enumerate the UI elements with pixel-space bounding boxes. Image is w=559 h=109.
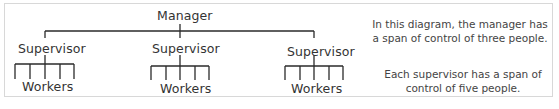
supervisor-label-2: Supervisor: [152, 41, 220, 56]
manager-span-note: In this diagram, the manager has a span …: [370, 17, 550, 45]
supervisor-span-note: Each supervisor has a span of control of…: [378, 67, 548, 95]
manager-label: Manager: [157, 8, 213, 23]
workers-label-3: Workers: [291, 81, 342, 96]
supervisor-label-1: Supervisor: [18, 41, 86, 56]
worker-tree-2: [151, 55, 209, 80]
worker-tree-1: [15, 55, 74, 79]
workers-label-1: Workers: [22, 79, 73, 94]
supervisor-label-3: Supervisor: [287, 44, 355, 59]
workers-label-2: Workers: [160, 81, 211, 96]
